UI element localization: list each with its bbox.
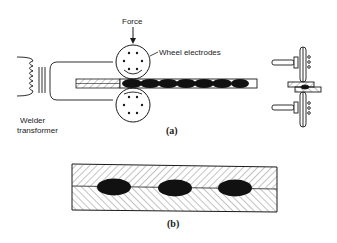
transformer-coil-icon [17,57,45,96]
wheel-electrodes-leader [150,52,158,56]
welder-transformer-label-line2: transformer [17,126,58,135]
part-b: (b) [72,164,277,230]
seam-welding-diagram: Force Welder transformer [0,0,337,243]
seam-cross-section [72,164,277,212]
caption-b: (b) [167,218,179,230]
upper-wheel-electrode [116,45,150,79]
force-label: Force [122,17,143,26]
wheel-electrodes-label: Wheel electrodes [159,48,221,57]
weld-nugget-3 [218,180,252,197]
weld-nugget-2 [158,180,192,197]
workpiece-strip [76,79,257,88]
weld-nugget-1 [97,179,131,196]
lower-wheel-electrode [116,88,150,122]
welder-transformer-label-line1: Welder [20,116,46,125]
caption-a: (a) [166,125,178,137]
side-view-electrodes [272,47,321,127]
part-a: Force Welder transformer [17,17,321,137]
